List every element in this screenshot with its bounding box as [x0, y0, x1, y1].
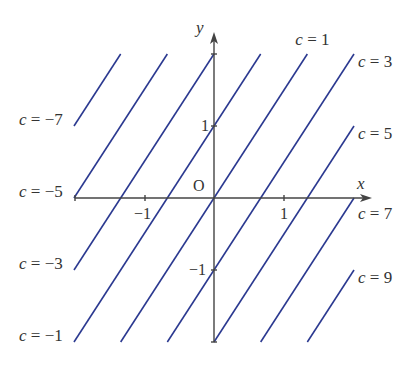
level-line-label: c = 9 — [358, 268, 392, 287]
x-tick-label-neg1: −1 — [134, 205, 151, 222]
level-line — [214, 126, 354, 342]
level-line — [261, 198, 354, 342]
level-line — [74, 54, 214, 270]
level-line — [74, 54, 121, 126]
level-line — [307, 270, 354, 342]
x-tick-label-1: 1 — [280, 205, 288, 222]
y-tick-label-neg1: −1 — [189, 261, 206, 278]
origin-label: O — [193, 177, 205, 194]
x-axis-label: x — [356, 174, 365, 193]
level-line-label: c = 3 — [358, 52, 392, 71]
level-line-label: c = −3 — [19, 254, 63, 273]
y-tick-label-1: 1 — [201, 117, 209, 134]
y-axis-label: y — [194, 18, 204, 37]
axes — [75, 32, 372, 342]
level-line-label: c = 5 — [358, 124, 392, 143]
level-line-label: c = 1 — [295, 30, 329, 49]
level-line-label: c = −5 — [19, 182, 63, 201]
level-line-label: c = 7 — [358, 204, 393, 223]
level-lines-diagram: y x O −1 1 1 −1 c = −7c = −5c = −3c = −1… — [0, 0, 418, 367]
level-line-label: c = −7 — [19, 110, 63, 129]
level-line — [74, 54, 167, 198]
level-line-label: c = −1 — [19, 326, 63, 345]
